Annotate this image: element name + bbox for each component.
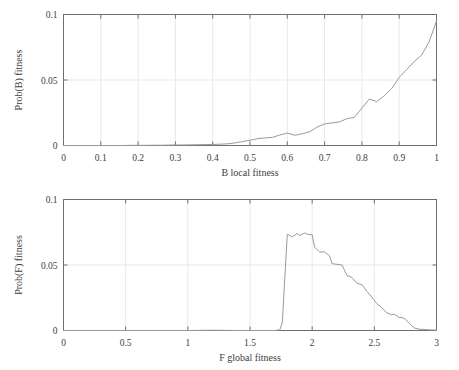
figure-container: 00.10.20.30.40.50.60.70.80.91 00.050.1 B… [0,0,459,370]
chart-svg-top: 00.10.20.30.40.50.60.70.80.91 00.050.1 B… [0,0,459,185]
x-tick-label: 0.5 [120,338,132,348]
x-tick-label: 3 [434,338,439,348]
x-tick-label: 1.5 [244,338,256,348]
x-tick-label: 0.5 [244,153,256,163]
y-tick-label: 0 [53,326,58,336]
chart-svg-bottom: 00.511.522.53 00.050.1 F global fitness … [0,185,459,370]
y-tick-label: 0 [53,141,58,151]
x-tick-label: 0.2 [132,153,144,163]
x-tick-label: 2.5 [368,338,380,348]
x-tick-label: 1 [434,153,439,163]
chart-panel-f-global-fitness: 00.511.522.53 00.050.1 F global fitness … [0,185,459,370]
x-tick-label: 0.8 [356,153,368,163]
x-tick-label: 0.4 [207,153,219,163]
y-axis-label-bottom: Prob(F) fitness [13,235,25,295]
x-tick-label: 0 [61,338,66,348]
x-axis-label-top: B local fitness [221,167,278,178]
y-tick-label: 0.1 [46,195,58,205]
x-tick-label: 0.9 [393,153,405,163]
x-tick-label: 2 [310,338,315,348]
y-tick-label: 0.1 [46,10,58,20]
x-tick-label: 0.3 [169,153,181,163]
x-tick-labels-top: 00.10.20.30.40.50.60.70.80.91 [61,153,439,163]
x-tick-label: 0 [61,153,66,163]
gridlines-top [64,15,437,146]
y-tick-label: 0.05 [41,76,58,86]
x-tick-labels-bottom: 00.511.522.53 [61,338,439,348]
x-tick-label: 0.7 [319,153,331,163]
x-tick-label: 0.6 [281,153,293,163]
x-axis-label-bottom: F global fitness [219,352,281,363]
chart-panel-b-local-fitness: 00.10.20.30.40.50.60.70.80.91 00.050.1 B… [0,0,459,185]
x-tick-label: 0.1 [95,153,107,163]
y-tick-labels-top: 00.050.1 [41,10,58,151]
y-tick-labels-bottom: 00.050.1 [41,195,58,336]
x-tick-label: 1 [185,338,190,348]
y-tick-label: 0.05 [41,261,58,271]
y-axis-label-top: Prob(B) fitness [13,49,25,110]
gridlines-bottom [64,200,437,331]
